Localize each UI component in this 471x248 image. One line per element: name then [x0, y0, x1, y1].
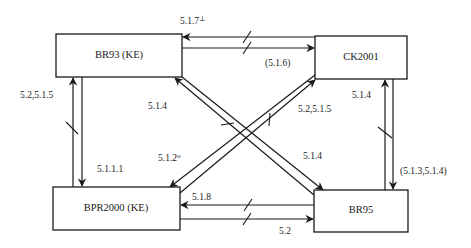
edge-label-bpr2000-to-ck2001: 5.2,5.1.5: [298, 104, 332, 114]
edge-label-bpr2000-to-br93: 5.2,5.1.5: [20, 90, 54, 100]
separation-tick: [66, 122, 78, 134]
edge-bpr2000-to-ck2001: [180, 80, 315, 193]
node-br93: BR93 (KE): [56, 34, 182, 77]
edge-label-br95-to-ck2001: 5.1.4: [352, 90, 371, 100]
edge-br95-to-br93: [175, 78, 314, 195]
node-label-ck2001: CK2001: [343, 51, 379, 62]
edge-bpr2000-to-br93: [66, 78, 78, 187]
separation-tick: [221, 123, 234, 125]
edge-ck2001-to-br93: [183, 31, 315, 43]
node-label-br93: BR93 (KE): [95, 49, 144, 61]
protocol-relation-diagram: 5.1.7⊥ (5.1.6) 5.2,5.1.5 5.1.1.1 5.1.4 5…: [0, 0, 471, 248]
edge-label-br93-to-ck2001: (5.1.6): [265, 58, 290, 69]
edge-label-bpr2000-to-br95: 5.2: [279, 226, 291, 236]
edge-br95-to-ck2001: [378, 80, 392, 190]
edge-label-br95-to-bpr2000: 5.1.8: [192, 192, 211, 202]
edge-br93-to-ck2001: [182, 42, 314, 54]
separation-tick: [269, 113, 270, 126]
node-label-bpr2000: BPR2000 (KE): [84, 202, 149, 214]
edge-label-br93-to-bpr2000: 5.1.1.1: [97, 164, 123, 174]
edge-label-ck2001-to-bpr2000: 5.1.2o: [158, 152, 181, 163]
edge-label-br93-to-br95: 5.1.4: [303, 151, 322, 161]
edge-label-ck2001-to-br95: (5.1.3,5.1.4): [400, 166, 447, 177]
edge-label-ck2001-to-br93: 5.1.7⊥: [180, 15, 206, 26]
node-br95: BR95: [314, 190, 408, 232]
edge-bpr2000-to-br95: [180, 213, 313, 225]
edge-label-br95-to-br93: 5.1.4: [148, 101, 167, 111]
node-ck2001: CK2001: [315, 36, 407, 79]
node-bpr2000: BPR2000 (KE): [53, 187, 180, 230]
node-label-br95: BR95: [349, 204, 374, 215]
